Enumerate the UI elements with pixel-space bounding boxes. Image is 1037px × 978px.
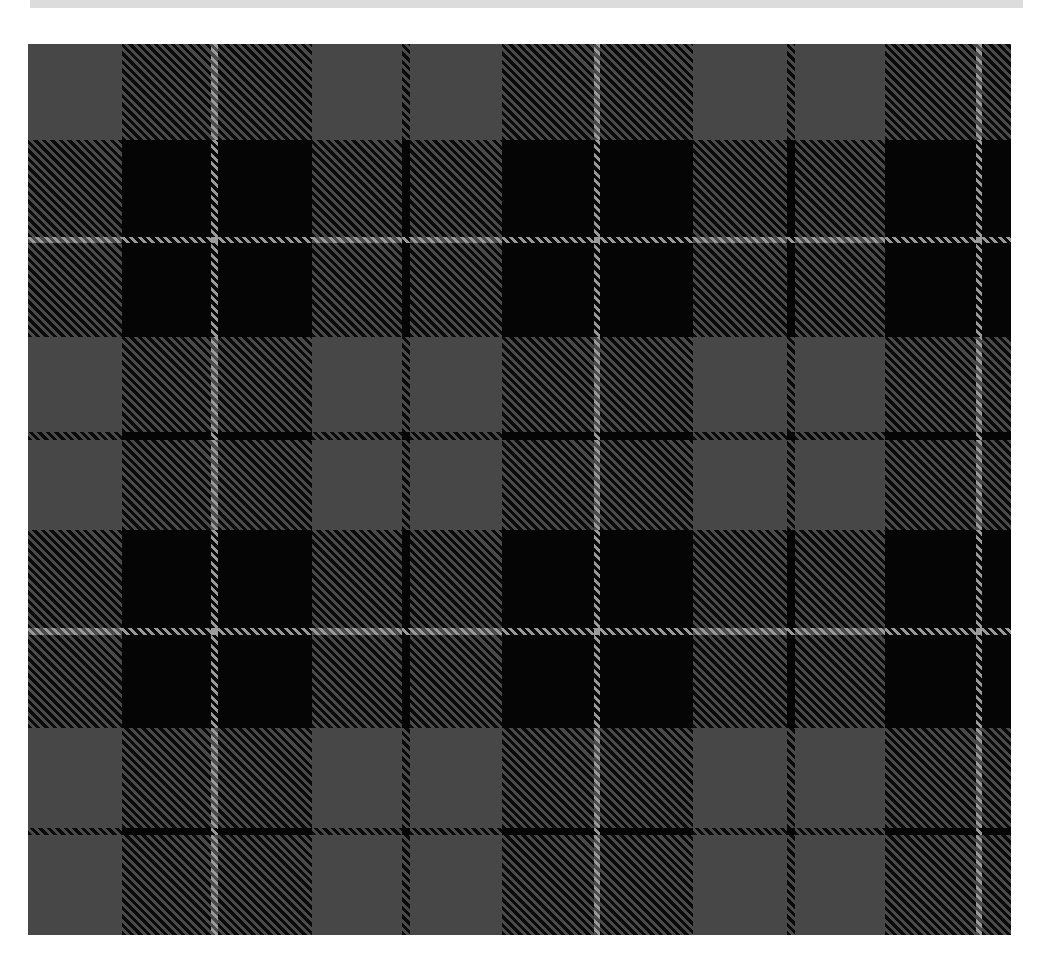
tartan-cell (795, 635, 885, 728)
tartan-cell (693, 628, 787, 635)
tartan-cell (402, 835, 410, 935)
tartan-cell (218, 440, 312, 530)
tartan-cell (600, 243, 693, 337)
tartan-cell (402, 337, 410, 432)
tartan-cell (600, 828, 693, 835)
tartan-cell (402, 635, 410, 728)
tartan-cell (600, 530, 693, 628)
tartan-cell (600, 628, 693, 635)
tartan-cell (885, 728, 976, 828)
tartan-cell (885, 628, 976, 635)
tartan-cell (312, 432, 402, 440)
tartan-cell (795, 243, 885, 337)
tartan-cell (600, 728, 693, 828)
tartan-cell (982, 628, 1011, 635)
tartan-cell (28, 140, 122, 237)
tartan-cell (982, 337, 1011, 432)
tartan-cell (795, 44, 885, 140)
tartan-cell (982, 835, 1011, 935)
tartan-cell (218, 530, 312, 628)
tartan-cell (787, 243, 795, 337)
tartan-cell (218, 243, 312, 337)
tartan-cell (218, 432, 312, 440)
tartan-cell (693, 44, 787, 140)
tartan-cell (122, 337, 211, 432)
tartan-cell (312, 44, 402, 140)
tartan-cell (410, 140, 502, 237)
tartan-cell (122, 432, 211, 440)
tartan-cell (502, 628, 594, 635)
tartan-cell (693, 140, 787, 237)
tartan-cell (600, 140, 693, 237)
tartan-cell (402, 140, 410, 237)
tartan-cell (795, 140, 885, 237)
tartan-cell (402, 432, 410, 440)
tartan-cell (122, 440, 211, 530)
tartan-cell (402, 828, 410, 835)
tartan-cell (218, 635, 312, 728)
tartan-cell (982, 432, 1011, 440)
tartan-pattern-image (28, 44, 1011, 935)
tartan-cell (402, 440, 410, 530)
tartan-cell (312, 628, 402, 635)
tartan-cell (211, 635, 218, 728)
tartan-cell (122, 140, 211, 237)
tartan-cell (502, 828, 594, 835)
tartan-cell (410, 530, 502, 628)
tartan-cell (211, 432, 218, 440)
tartan-cell (122, 44, 211, 140)
tartan-cell (502, 530, 594, 628)
tartan-cell (410, 44, 502, 140)
tartan-cell (787, 44, 795, 140)
tartan-cell (410, 337, 502, 432)
tartan-cell (218, 628, 312, 635)
tartan-cell (410, 628, 502, 635)
tartan-cell (211, 835, 218, 935)
tartan-cell (312, 140, 402, 237)
tartan-cell (402, 530, 410, 628)
tartan-cell (122, 828, 211, 835)
tartan-cell (410, 828, 502, 835)
tartan-cell (795, 440, 885, 530)
tartan-cell (410, 243, 502, 337)
tartan-cell (312, 440, 402, 530)
tartan-cell (312, 728, 402, 828)
tartan-cell (982, 440, 1011, 530)
tartan-cell (312, 337, 402, 432)
tartan-cell (600, 44, 693, 140)
tartan-cell (402, 728, 410, 828)
tartan-cell (787, 635, 795, 728)
tartan-cell (600, 432, 693, 440)
tartan-cell (218, 140, 312, 237)
tartan-cell (787, 440, 795, 530)
tartan-cell (28, 628, 122, 635)
tartan-cell (885, 337, 976, 432)
tartan-cell (312, 635, 402, 728)
tartan-cell (410, 440, 502, 530)
tartan-cell (312, 530, 402, 628)
tartan-cell (885, 530, 976, 628)
tartan-cell (693, 828, 787, 835)
tartan-cell (218, 728, 312, 828)
tartan-cell (211, 828, 218, 835)
tartan-cell (795, 337, 885, 432)
tartan-cell (211, 44, 218, 140)
tartan-cell (982, 728, 1011, 828)
tartan-cell (28, 44, 122, 140)
tartan-cell (502, 44, 594, 140)
top-gray-strip (30, 0, 1023, 8)
tartan-cell (28, 243, 122, 337)
tartan-cell (502, 140, 594, 237)
tartan-cell (885, 243, 976, 337)
tartan-cell (600, 635, 693, 728)
tartan-cell (795, 432, 885, 440)
tartan-cell (787, 728, 795, 828)
tartan-cell (28, 432, 122, 440)
tartan-cell (312, 828, 402, 835)
tartan-cell (218, 337, 312, 432)
tartan-cell (795, 835, 885, 935)
tartan-cell (787, 628, 795, 635)
tartan-cell (502, 635, 594, 728)
tartan-cell (982, 635, 1011, 728)
tartan-cell (600, 835, 693, 935)
